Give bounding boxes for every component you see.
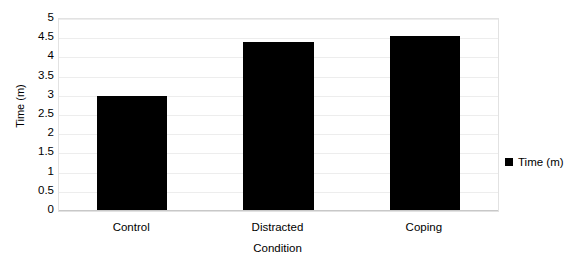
y-axis-tick-label: 1.5 <box>26 146 54 158</box>
bar-slot <box>59 19 205 211</box>
bar-slot <box>352 19 498 211</box>
x-axis-tick-label: Distracted <box>204 221 350 234</box>
x-axis-tick-label: Control <box>58 221 204 234</box>
y-axis-tick-label: 0.5 <box>26 185 54 197</box>
y-axis-title: Time (m) <box>14 66 26 146</box>
y-axis-tick-label: 2 <box>26 127 54 139</box>
legend-label: Time (m) <box>518 156 564 168</box>
bars-layer <box>59 19 498 211</box>
y-axis-tick-label: 4.5 <box>26 31 54 43</box>
chart-legend: Time (m) <box>505 156 564 168</box>
x-axis-tick-labels: ControlDistractedCoping <box>58 221 497 237</box>
y-axis-tick-label: 0 <box>26 204 54 216</box>
plot-area <box>58 18 499 212</box>
y-axis-tick-label: 5 <box>26 12 54 24</box>
bar[interactable] <box>243 42 313 211</box>
x-axis-baseline <box>59 210 498 211</box>
bar-slot <box>205 19 351 211</box>
y-axis-tick-label: 1 <box>26 166 54 178</box>
bar-chart: Time (m) 00.511.522.533.544.55 ControlDi… <box>0 0 580 269</box>
y-axis-tick-label: 4 <box>26 50 54 62</box>
bar[interactable] <box>97 96 167 211</box>
y-axis-tick-labels: 00.511.522.533.544.55 <box>26 0 54 269</box>
y-axis-tick-label: 3.5 <box>26 70 54 82</box>
legend-swatch-icon <box>505 158 513 166</box>
x-axis-tick-label: Coping <box>351 221 497 234</box>
y-axis-tick-label: 3 <box>26 89 54 101</box>
y-axis-tick-label: 2.5 <box>26 108 54 120</box>
x-axis-title: Condition <box>58 242 497 255</box>
bar[interactable] <box>390 36 460 211</box>
